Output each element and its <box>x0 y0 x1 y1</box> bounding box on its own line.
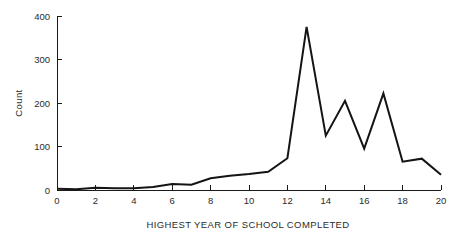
x-tick-label: 16 <box>359 195 370 206</box>
x-tick-label: 10 <box>244 195 255 206</box>
y-axis-tick-labels: 0100200300400 <box>34 11 50 196</box>
x-tick-label: 12 <box>282 195 293 206</box>
x-tick-label: 2 <box>93 195 98 206</box>
line-chart: 0100200300400 02468101214161820 HIGHEST … <box>0 0 476 236</box>
y-axis-title: Count <box>13 89 24 116</box>
y-tick-label: 400 <box>34 11 50 22</box>
x-axis-title: HIGHEST YEAR OF SCHOOL COMPLETED <box>146 219 349 230</box>
x-tick-label: 0 <box>54 195 59 206</box>
x-tick-label: 14 <box>321 195 332 206</box>
x-tick-label: 18 <box>397 195 408 206</box>
y-tick-label: 0 <box>45 185 50 196</box>
x-tick-label: 6 <box>170 195 175 206</box>
x-tick-label: 4 <box>131 195 136 206</box>
y-tick-label: 100 <box>34 141 50 152</box>
y-axis-ticks <box>57 16 62 190</box>
x-axis-tick-labels: 02468101214161820 <box>54 195 446 206</box>
x-tick-label: 20 <box>436 195 447 206</box>
chart-figure: 0100200300400 02468101214161820 HIGHEST … <box>0 0 476 236</box>
data-series-line <box>57 27 441 189</box>
y-tick-label: 200 <box>34 98 50 109</box>
y-tick-label: 300 <box>34 54 50 65</box>
x-tick-label: 8 <box>208 195 213 206</box>
